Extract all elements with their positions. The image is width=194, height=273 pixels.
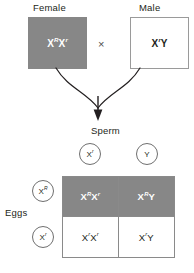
- female-parent-genotype-box: XRXr: [28, 17, 87, 69]
- egg-gamete-circle-1: XR: [32, 180, 54, 202]
- punnett-square-diagram: Female Male XRXr × XrY Sperm Xr Y Eggs X…: [0, 0, 194, 273]
- punnett-cell-row0-col1-text: XRY: [138, 191, 155, 202]
- female-allele1-base: X: [47, 38, 54, 49]
- male-genotype-text: XrY: [152, 38, 168, 49]
- r0c1-p1-base: Y: [148, 191, 154, 202]
- punnett-cell-row0-col0-text: XRXr: [80, 191, 100, 202]
- sperm-gamete-2-text: Y: [144, 150, 150, 159]
- cross-funnel-arrow-icon: [52, 66, 144, 122]
- r1c1-p1-base: Y: [147, 232, 153, 243]
- egg-gamete-2-text: Xr: [39, 233, 46, 242]
- egg-gamete-2-sup: r: [45, 232, 47, 237]
- punnett-cell-row1-col1: XrY: [119, 217, 175, 257]
- r0c0-p1-sup: r: [98, 191, 100, 197]
- punnett-cell-row1-col0: XrXr: [63, 217, 119, 257]
- punnett-cell-row0-col1: XRY: [119, 177, 175, 217]
- punnett-cell-row0-col0: XRXr: [63, 177, 119, 217]
- sperm-gamete-1-base: X: [86, 150, 91, 159]
- female-genotype-text: XRXr: [47, 38, 68, 49]
- r1c0-p1-sup: r: [97, 231, 99, 237]
- r0c1-p0-base: X: [138, 191, 144, 202]
- sperm-gamete-circle-2: Y: [136, 143, 158, 165]
- r1c0-p1-base: X: [90, 232, 96, 243]
- female-allele2-sup: r: [65, 36, 67, 43]
- egg-gamete-1-text: XR: [38, 187, 47, 196]
- egg-gamete-2-base: X: [39, 233, 44, 242]
- egg-gamete-1-base: X: [38, 187, 43, 196]
- male-parent-genotype-box: XrY: [130, 17, 189, 69]
- sperm-gamete-circle-1: Xr: [79, 143, 101, 165]
- punnett-grid: XRXr XRY XrXr XrY: [62, 176, 175, 258]
- punnett-cell-row1-col1-text: XrY: [139, 232, 154, 243]
- punnett-cell-row1-col0-text: XrXr: [82, 232, 99, 243]
- egg-gamete-1-sup: R: [44, 186, 48, 191]
- female-parent-label: Female: [33, 2, 66, 13]
- egg-gamete-circle-2: Xr: [32, 226, 54, 248]
- sperm-gamete-1-text: Xr: [86, 150, 93, 159]
- eggs-label: Eggs: [5, 207, 27, 218]
- r0c0-p1-base: X: [91, 191, 97, 202]
- male-parent-label: Male: [139, 2, 160, 13]
- r0c0-p0-base: X: [80, 191, 86, 202]
- cross-symbol: ×: [98, 38, 104, 50]
- male-allele2-base: Y: [161, 38, 168, 49]
- sperm-gamete-2-base: Y: [144, 150, 149, 159]
- sperm-label: Sperm: [91, 125, 120, 136]
- sperm-gamete-1-sup: r: [92, 149, 94, 154]
